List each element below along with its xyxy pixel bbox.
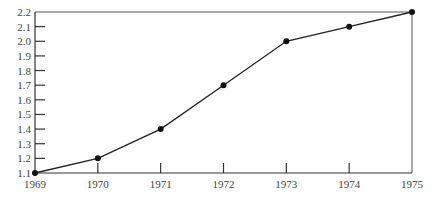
y-tick-label: 1.5 [17, 108, 31, 120]
y-tick-label: 2.0 [17, 35, 31, 47]
y-tick-label: 2.2 [17, 6, 31, 18]
x-axis: 1969197019711972197319741975 [24, 163, 424, 190]
y-tick-label: 1.8 [17, 65, 31, 77]
data-point-marker [32, 170, 38, 176]
y-tick-label: 1.6 [17, 94, 31, 106]
x-tick-label: 1973 [275, 178, 298, 190]
y-tick-label: 1.7 [17, 79, 31, 91]
data-point-marker [158, 126, 164, 132]
y-tick-label: 1.2 [17, 152, 31, 164]
x-tick-label: 1972 [213, 178, 235, 190]
data-point-marker [409, 9, 415, 15]
y-tick-label: 1.4 [17, 123, 31, 135]
data-point-marker [346, 24, 352, 30]
data-point-marker [283, 38, 289, 44]
series-line [35, 12, 412, 173]
data-point-marker [221, 82, 227, 88]
x-tick-label: 1974 [338, 178, 361, 190]
x-tick-label: 1975 [401, 178, 424, 190]
plot-frame [35, 12, 412, 173]
line-chart: 1.11.21.31.41.51.61.71.81.92.02.12.2 196… [0, 0, 438, 198]
data-point-marker [95, 155, 101, 161]
y-tick-label: 2.1 [17, 21, 31, 33]
data-series [32, 9, 415, 176]
x-tick-label: 1971 [150, 178, 172, 190]
x-tick-label: 1969 [24, 178, 47, 190]
y-tick-label: 1.9 [17, 50, 31, 62]
y-tick-label: 1.3 [17, 138, 31, 150]
x-tick-label: 1970 [87, 178, 110, 190]
y-axis: 1.11.21.31.41.51.61.71.81.92.02.12.2 [17, 6, 45, 179]
